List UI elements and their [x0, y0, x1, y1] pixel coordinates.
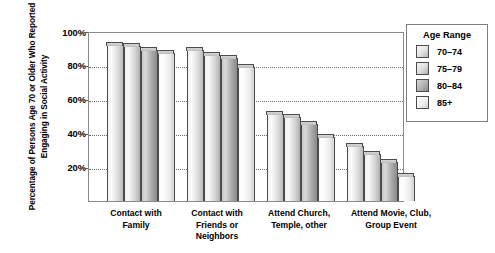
legend-swatch-icon-70-74 — [416, 45, 429, 58]
bar-rect — [107, 45, 124, 201]
legend-item-70-74[interactable]: 70–74 — [407, 43, 487, 60]
bar-attend-church-3 — [301, 124, 318, 201]
legend-swatch-icon-80-84 — [416, 79, 429, 92]
bar-rect — [204, 55, 221, 201]
bar-attend-church-2 — [284, 117, 301, 201]
x-label-line2: Group Event — [337, 220, 445, 232]
bar-attend-movie-1 — [347, 146, 364, 201]
bar-contact-friends-3 — [221, 58, 238, 201]
y-tick-label-40: 40% — [50, 129, 86, 139]
y-tick-label-80: 80% — [50, 61, 86, 71]
bar-attend-movie-4 — [398, 176, 415, 201]
x-label-line3: Neighbors — [172, 231, 262, 243]
legend-label-80-84: 80–84 — [437, 81, 462, 91]
bar-contact-family-1 — [107, 45, 124, 201]
bar-chart: Percentage of Persons Age 70 or Older Wh… — [0, 0, 495, 253]
plot-area — [88, 32, 404, 202]
legend-swatch-icon-85-plus — [416, 96, 429, 109]
bar-rect — [318, 137, 335, 201]
bar-rect — [238, 67, 255, 201]
y-tick-label-20: 20% — [50, 163, 86, 173]
x-label-line2: Temple, other — [253, 220, 345, 232]
bar-rect — [267, 114, 284, 201]
legend-label-75-79: 75–79 — [437, 64, 462, 74]
x-label-line2: Friends or — [172, 220, 262, 232]
bar-rect — [187, 50, 204, 201]
legend-item-75-79[interactable]: 75–79 — [407, 60, 487, 77]
y-tick-label-60: 60% — [50, 95, 86, 105]
x-label-attend-church: Attend Church, Temple, other — [253, 208, 345, 231]
bar-contact-family-4 — [158, 53, 175, 201]
bar-group-contact-friends — [187, 50, 255, 201]
legend-title: Age Range — [407, 30, 487, 40]
bar-rect — [364, 154, 381, 201]
bar-contact-friends-4 — [238, 67, 255, 201]
bar-attend-church-1 — [267, 114, 284, 201]
x-label-line1: Attend Movie, Club, — [337, 208, 445, 220]
x-label-line2: Family — [93, 220, 179, 232]
y-axis-title: Percentage of Persons Age 70 or Older Wh… — [27, 1, 50, 213]
legend-label-85-plus: 85+ — [437, 98, 452, 108]
x-label-attend-movie: Attend Movie, Club, Group Event — [337, 208, 445, 231]
bar-rect — [141, 50, 158, 201]
bar-rect — [301, 124, 318, 201]
plot-inner — [89, 33, 403, 201]
bar-group-attend-church — [267, 114, 335, 201]
y-tick-label-100: 100% — [50, 28, 86, 38]
bar-contact-family-2 — [124, 46, 141, 201]
bar-rect — [221, 58, 238, 201]
bar-attend-church-4 — [318, 137, 335, 201]
bar-rect — [398, 176, 415, 201]
legend-swatch-icon-75-79 — [416, 62, 429, 75]
bar-group-attend-movie — [347, 146, 415, 201]
x-label-line1: Contact with — [172, 208, 262, 220]
bar-rect — [347, 146, 364, 201]
bar-contact-family-3 — [141, 50, 158, 201]
x-label-contact-friends: Contact with Friends or Neighbors — [172, 208, 262, 243]
x-label-line1: Attend Church, — [253, 208, 345, 220]
legend-item-85-plus[interactable]: 85+ — [407, 94, 487, 111]
x-label-contact-family: Contact with Family — [93, 208, 179, 231]
bar-rect — [124, 46, 141, 201]
bar-rect — [284, 117, 301, 201]
bar-rect — [158, 53, 175, 201]
x-label-line1: Contact with — [93, 208, 179, 220]
legend-item-80-84[interactable]: 80–84 — [407, 77, 487, 94]
bar-rect — [381, 162, 398, 201]
bar-contact-friends-2 — [204, 55, 221, 201]
bar-contact-friends-1 — [187, 50, 204, 201]
legend: Age Range 70–74 75–79 80–84 85+ — [406, 24, 488, 122]
bar-attend-movie-2 — [364, 154, 381, 201]
legend-label-70-74: 70–74 — [437, 47, 462, 57]
bar-group-contact-family — [107, 45, 175, 201]
bar-attend-movie-3 — [381, 162, 398, 201]
